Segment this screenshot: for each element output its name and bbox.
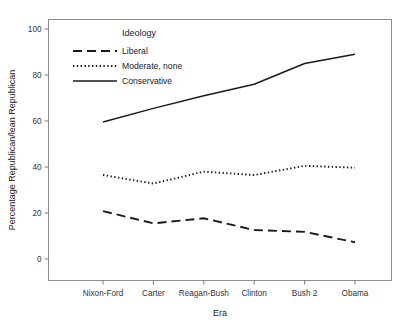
legend-title: Ideology xyxy=(122,28,157,38)
legend-label-conservative: Conservative xyxy=(122,76,172,86)
y-tick-label: 0 xyxy=(37,255,42,264)
x-tick-label: Carter xyxy=(142,289,165,298)
x-tick-label: Clinton xyxy=(241,289,267,298)
y-tick-label: 40 xyxy=(32,163,42,172)
x-tick-label: Obama xyxy=(342,289,369,298)
y-tick-label: 80 xyxy=(32,71,42,80)
y-axis-title: Percentage Republican/lean Republican xyxy=(7,70,17,231)
y-tick-label: 20 xyxy=(32,209,42,218)
y-tick-label: 60 xyxy=(32,117,42,126)
legend-label-moderate-none: Moderate, none xyxy=(122,61,182,71)
x-tick-label: Reagan-Bush xyxy=(179,289,230,298)
y-tick-label: 100 xyxy=(28,25,42,34)
x-tick-label: Bush 2 xyxy=(292,289,318,298)
x-tick-label: Nixon-Ford xyxy=(83,289,124,298)
chart-figure: 020406080100 Nixon-FordCarterReagan-Bush… xyxy=(0,0,408,323)
line-chart: 020406080100 Nixon-FordCarterReagan-Bush… xyxy=(0,0,408,323)
legend-label-liberal: Liberal xyxy=(122,46,148,56)
chart-background xyxy=(0,0,408,323)
x-axis-title: Era xyxy=(213,308,227,318)
